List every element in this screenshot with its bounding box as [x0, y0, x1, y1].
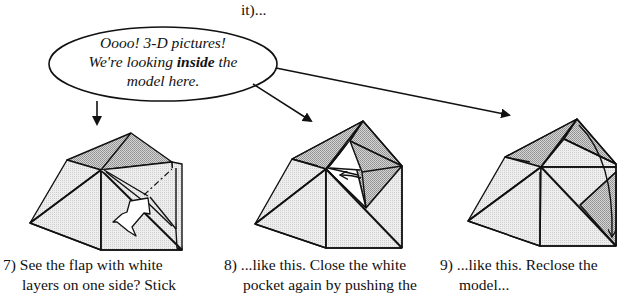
- step-7-line-2: layers on one side? Stick: [3, 275, 176, 295]
- model-step7-figure: [30, 133, 182, 250]
- step-8-caption: 8) ...like this. Close the white pocket …: [224, 255, 417, 295]
- arrow-to-step9-icon: [276, 68, 509, 115]
- step-8-line-2: pocket again by pushing the: [224, 275, 417, 295]
- bubble-line-1: Oooo! 3-D pictures!: [48, 33, 278, 52]
- step-8-line-1: ...like this. Close the white: [241, 256, 406, 273]
- step-7-number: 7): [3, 256, 16, 273]
- model-step8-figure: [255, 121, 402, 248]
- bubble-line-2-pre: We're looking: [89, 53, 177, 70]
- bubble-line-2-post: the: [215, 53, 238, 70]
- bubble-line-3: model here.: [48, 71, 278, 90]
- model-step9-figure: [468, 119, 616, 246]
- bubble-emphasis: inside: [177, 53, 215, 70]
- step-7-line-1: See the flap with white: [20, 256, 163, 273]
- step-9-number: 9): [440, 256, 453, 273]
- step-9-line-2: model...: [440, 275, 598, 295]
- step-9-caption: 9) ...like this. Reclose the model...: [440, 255, 598, 295]
- bubble-line-2: We're looking inside the: [48, 52, 278, 71]
- step-7-caption: 7) See the flap with white layers on one…: [3, 255, 176, 295]
- step-9-line-1: ...like this. Reclose the: [457, 256, 598, 273]
- step-8-number: 8): [224, 256, 237, 273]
- speech-bubble-text: Oooo! 3-D pictures! We're looking inside…: [48, 33, 278, 90]
